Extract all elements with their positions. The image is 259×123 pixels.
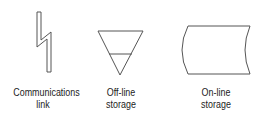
- off-line-storage-symbol: [98, 31, 143, 75]
- off-line-storage-label: Off-line storage: [100, 86, 143, 110]
- on-line-storage-label: On-line storage: [194, 86, 238, 110]
- on-line-storage-symbol: [182, 26, 250, 74]
- communications-link-label: Communications link: [13, 86, 73, 110]
- communications-link-symbol: [37, 12, 51, 72]
